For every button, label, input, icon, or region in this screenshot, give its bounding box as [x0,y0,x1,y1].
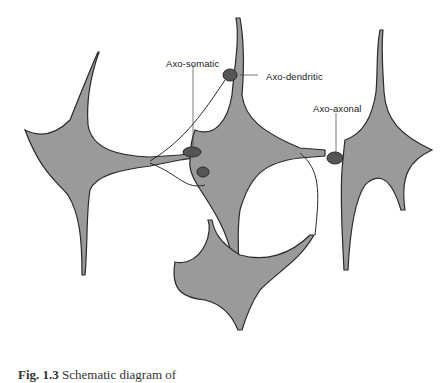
axo-dendritic-terminal [223,69,237,81]
label-axo-axonal: Axo-axonal [313,103,362,114]
neuron-bottom [174,220,314,330]
figure-caption: Fig. 1.3 Schematic diagram of [18,367,176,383]
label-axo-somatic: Axo-somatic [166,58,219,69]
figure-number: Fig. 1.3 [18,367,59,382]
neuron-right [341,30,432,270]
caption-text: Schematic diagram of [62,367,176,382]
axo-somatic-terminal [183,147,201,157]
label-axo-dendritic: Axo-dendritic [266,71,323,82]
axo-axonal-terminal [327,152,343,164]
